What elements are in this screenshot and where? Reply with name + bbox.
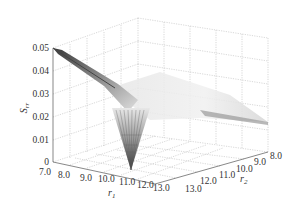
z-axis-label: Srr <box>18 103 31 114</box>
z-tick: 0 <box>44 157 49 167</box>
surface-plot: 0.05 0.04 0.03 0.02 0.01 0 Srr 7.0 8.0 9… <box>0 0 298 212</box>
y-axis-label: r2 <box>240 173 248 186</box>
y-tick: 11.0 <box>219 170 236 180</box>
y-tick: 8.0 <box>270 151 282 161</box>
z-tick: 0.01 <box>32 135 49 145</box>
x-tick: 13.0 <box>153 183 170 193</box>
x-tick: 11.0 <box>119 177 136 187</box>
x-tick: 10.0 <box>98 174 115 184</box>
x-tick: 9.0 <box>80 173 92 183</box>
x-tick: 7.0 <box>39 167 51 177</box>
x-tick: 12.0 <box>137 180 154 190</box>
y-tick: 12.0 <box>200 176 217 186</box>
svg-text:Srr: Srr <box>18 103 31 114</box>
z-tick: 0.02 <box>32 112 49 122</box>
z-axis-ticks: 0.05 0.04 0.03 0.02 0.01 0 <box>32 43 49 167</box>
z-tick: 0.05 <box>32 43 49 53</box>
y-tick: 10.0 <box>236 164 253 174</box>
x-axis-ticks: 7.0 8.0 9.0 10.0 11.0 12.0 13.0 <box>39 167 170 193</box>
y-tick: 9.0 <box>254 157 266 167</box>
z-tick: 0.04 <box>32 66 49 76</box>
x-tick: 8.0 <box>58 170 70 180</box>
z-tick: 0.03 <box>32 89 49 99</box>
surface-mesh <box>53 48 268 170</box>
x-axis-label: r1 <box>108 187 115 200</box>
